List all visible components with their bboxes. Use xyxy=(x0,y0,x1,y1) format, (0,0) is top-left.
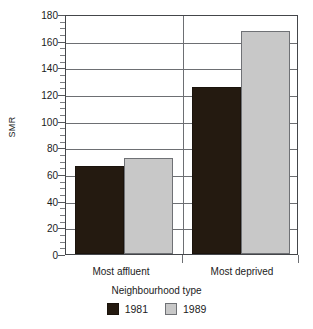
legend-swatch-1981-icon xyxy=(107,303,119,315)
y-tick-label-20: 20 xyxy=(24,223,58,234)
x-axis-title: Neighbourhood type xyxy=(0,285,313,296)
y-tick-label-40: 40 xyxy=(24,196,58,207)
bar-1989-most-affluent xyxy=(124,158,173,254)
y-tick-major-180 xyxy=(58,15,65,16)
y-tick-label-60: 60 xyxy=(24,170,58,181)
legend-swatch-1989-icon xyxy=(165,303,177,315)
legend-label-1981: 1981 xyxy=(125,303,148,315)
y-tick-label-160: 160 xyxy=(24,36,58,47)
y-tick-major-40 xyxy=(58,202,65,203)
group-divider xyxy=(183,16,184,254)
bar-1989-most-deprived xyxy=(241,31,290,254)
y-tick-label-100: 100 xyxy=(24,116,58,127)
x-tick-1 xyxy=(298,255,299,263)
y-tick-major-160 xyxy=(58,42,65,43)
category-label-most-affluent: Most affluent xyxy=(65,266,177,277)
y-tick-label-120: 120 xyxy=(24,90,58,101)
y-tick-major-100 xyxy=(58,122,65,123)
legend-item-1989: 1989 xyxy=(165,303,206,315)
plot-area xyxy=(65,15,298,255)
x-tick-0 xyxy=(182,255,183,263)
y-tick-major-20 xyxy=(58,228,65,229)
y-tick-label-0: 0 xyxy=(24,250,58,261)
y-tick-major-80 xyxy=(58,148,65,149)
y-tick-major-120 xyxy=(58,95,65,96)
legend-label-1989: 1989 xyxy=(183,303,206,315)
category-label-most-deprived: Most deprived xyxy=(186,266,298,277)
bar-chart-figure: SMR 020406080100120140160180 Most afflue… xyxy=(0,0,313,329)
y-tick-label-140: 140 xyxy=(24,63,58,74)
bar-1981-most-affluent xyxy=(75,166,124,254)
y-tick-label-80: 80 xyxy=(24,143,58,154)
chart-legend: 1981 1989 xyxy=(0,303,313,315)
legend-item-1981: 1981 xyxy=(107,303,148,315)
y-tick-major-0 xyxy=(58,255,65,256)
y-tick-major-140 xyxy=(58,68,65,69)
y-tick-label-180: 180 xyxy=(24,10,58,21)
bar-1981-most-deprived xyxy=(192,87,241,254)
y-tick-major-60 xyxy=(58,175,65,176)
